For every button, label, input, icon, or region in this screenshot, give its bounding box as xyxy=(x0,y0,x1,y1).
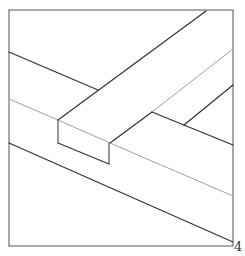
back-board-top-edge-left-line xyxy=(9,52,98,90)
beam-front-top-line xyxy=(58,120,110,143)
board-bottom-edge-line xyxy=(9,143,233,242)
figure-number-label: 4 xyxy=(234,240,242,253)
back-board-edge-right-line xyxy=(152,112,233,145)
beam-right-continuation-line xyxy=(152,49,233,112)
diagram-frame xyxy=(9,10,233,246)
board-middle-thin-line-right-line xyxy=(110,143,233,196)
joint-diagram xyxy=(0,0,245,256)
beam-front-bottom-line xyxy=(58,143,109,164)
board-middle-thin-line-left-line xyxy=(9,99,58,120)
diagram-lines xyxy=(9,11,233,242)
beam-top-left-edge-line xyxy=(58,11,206,120)
beam-top-right-edge-line xyxy=(110,112,152,143)
rear-board-edge-line xyxy=(184,85,233,125)
